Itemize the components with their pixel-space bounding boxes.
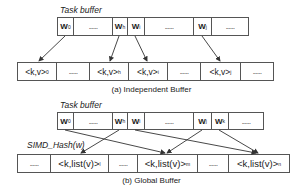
mapping-arrows xyxy=(0,0,303,192)
arrow-w0-kv0 xyxy=(39,36,65,61)
arrow-wj-kvj xyxy=(202,36,220,61)
arrow-w0-listm xyxy=(65,130,165,153)
arrow-wh-kvh xyxy=(110,36,119,61)
arrow-wi-kvi xyxy=(135,36,147,61)
